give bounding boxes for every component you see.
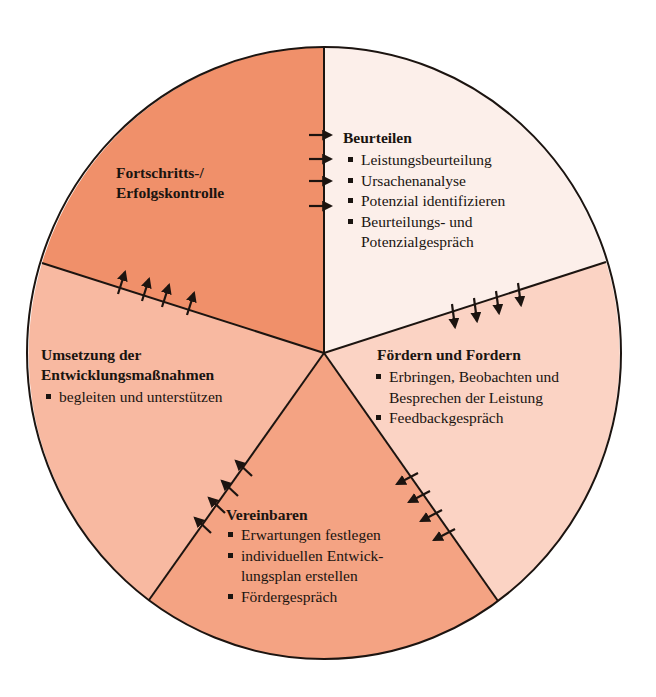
list-item: Feedbackgespräch [376, 408, 559, 429]
bullet-icon [348, 219, 353, 224]
list-item: Erbringen, Beobachten undBesprechen der … [376, 367, 559, 408]
bullet-icon [348, 198, 353, 203]
segment-list-beurteilen: Leistungsbeurteilung Ursachenanalyse Pot… [348, 150, 505, 253]
segment-title-umsetzung: Umsetzung der Entwicklungsmaßnahmen [41, 345, 214, 385]
list-item: Fördergespräch [228, 587, 383, 608]
list-item: Beurteilungs- undPotenzialgespräch [348, 212, 505, 253]
bullet-icon [228, 553, 233, 558]
bullet-icon [228, 594, 233, 599]
segment-title-vereinbaren: Vereinbaren [226, 505, 308, 525]
bullet-icon [46, 394, 51, 399]
bullet-icon [348, 178, 353, 183]
list-item: Erwartungen festlegen [228, 525, 383, 546]
segment-list-umsetzung: begleiten und unterstützen [46, 387, 223, 408]
segment-title-foerdern: Fördern und Fordern [377, 345, 521, 365]
list-item: Leistungsbeurteilung [348, 150, 505, 171]
bullet-icon [376, 374, 381, 379]
segment-list-foerdern: Erbringen, Beobachten undBesprechen der … [376, 367, 559, 429]
segment-title-beurteilen: Beurteilen [343, 128, 412, 148]
bullet-icon [348, 157, 353, 162]
bullet-icon [376, 415, 381, 420]
list-item: Potenzial identifizieren [348, 191, 505, 212]
list-item: begleiten und unterstützen [46, 387, 223, 408]
list-item: individuellen Entwick-lungsplan erstelle… [228, 546, 383, 587]
bullet-icon [228, 532, 233, 537]
list-item: Ursachenanalyse [348, 171, 505, 192]
segment-title-fortschritt: Fortschritts-/ Erfolgskontrolle [116, 163, 224, 203]
segment-list-vereinbaren: Erwartungen festlegen individuellen Entw… [228, 525, 383, 607]
